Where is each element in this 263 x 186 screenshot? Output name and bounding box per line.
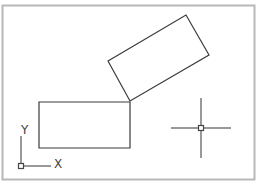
ucs-y-label: Y (20, 123, 29, 137)
ucs-x-label: X (54, 157, 62, 171)
pickbox (199, 126, 204, 131)
drawing-canvas[interactable]: Y X (0, 0, 263, 186)
ucs-origin-box (19, 164, 24, 169)
drawing-frame (3, 6, 255, 180)
